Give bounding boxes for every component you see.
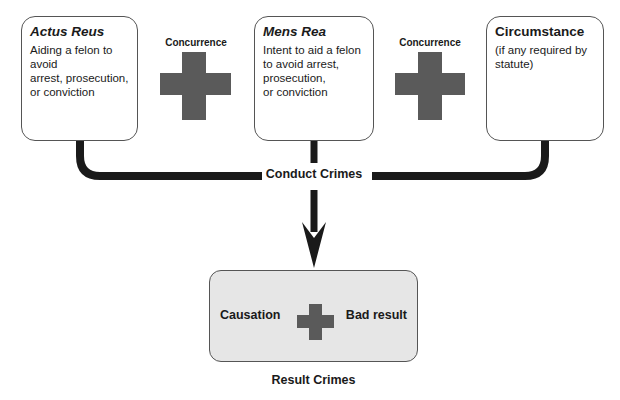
- circumstance-title: Circumstance: [495, 24, 595, 39]
- circumstance-box: Circumstance (if any required by statute…: [486, 16, 604, 141]
- circumstance-description: (if any required by statute): [495, 43, 595, 71]
- actus-reus-description: Aiding a felon to avoid arrest, prosecut…: [30, 43, 129, 99]
- causation-label: Causation: [220, 308, 280, 322]
- mens-rea-title: Mens Rea: [263, 24, 365, 39]
- result-crimes-label: Result Crimes: [209, 373, 418, 387]
- conduct-crimes-label: Conduct Crimes: [0, 167, 620, 181]
- mens-rea-box: Mens Rea Intent to aid a felon to avoid …: [254, 16, 374, 141]
- concurrence-label-2: Concurrence: [380, 37, 480, 48]
- result-box: Causation Bad result: [209, 270, 418, 362]
- concurrence-label-1: Concurrence: [146, 37, 246, 48]
- actus-reus-box: Actus Reus Aiding a felon to avoid arres…: [21, 16, 138, 141]
- bad-result-label: Bad result: [346, 308, 407, 322]
- actus-reus-title: Actus Reus: [30, 24, 129, 39]
- mens-rea-description: Intent to aid a felon to avoid arrest, p…: [263, 43, 365, 99]
